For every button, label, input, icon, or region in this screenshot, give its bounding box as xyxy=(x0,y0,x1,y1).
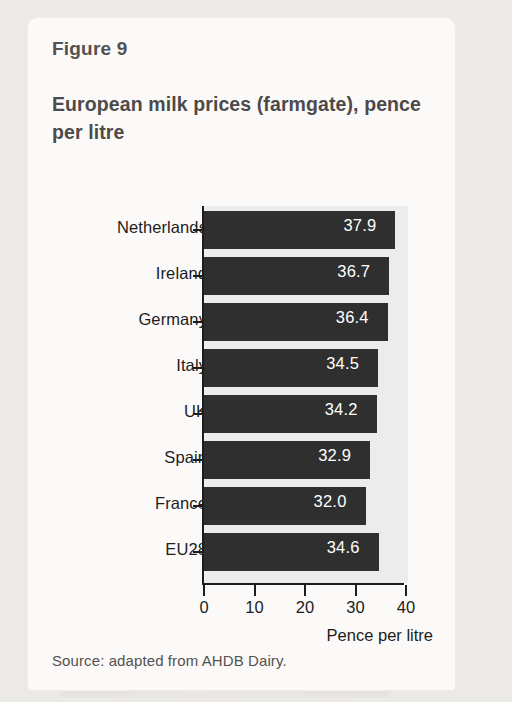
x-axis-tick xyxy=(254,585,256,596)
bar-category-label: France xyxy=(155,494,207,513)
bar-chart: Netherlands37.9Ireland36.7Germany36.4Ita… xyxy=(28,170,455,640)
bar-category-label: Ireland xyxy=(156,264,207,283)
x-axis-tick xyxy=(405,585,407,596)
bar-value-label: 32.0 xyxy=(314,492,347,511)
y-axis-tick xyxy=(193,367,204,369)
x-axis-tick-label: 40 xyxy=(385,598,427,617)
bar-value-label: 36.4 xyxy=(336,308,369,327)
bar-value-label: 37.9 xyxy=(343,216,376,235)
x-axis-title: Pence per litre xyxy=(208,626,433,645)
bar-category-label: EU28 xyxy=(165,540,207,559)
bar-row: Italy34.5 xyxy=(28,345,455,391)
bar-row: Netherlands37.9 xyxy=(28,207,455,253)
y-axis-tick xyxy=(193,321,204,323)
x-axis-tick xyxy=(304,585,306,596)
figure-card: Figure 9 European milk prices (farmgate)… xyxy=(28,18,455,690)
bar-category-label: Netherlands xyxy=(117,218,207,237)
bar-value-label: 34.5 xyxy=(326,354,359,373)
bar-row: Germany36.4 xyxy=(28,299,455,345)
y-axis-tick xyxy=(193,229,204,231)
figure-number: Figure 9 xyxy=(52,38,128,60)
y-axis-tick xyxy=(193,413,204,415)
x-axis-tick-label: 30 xyxy=(335,598,377,617)
bar-value-label: 32.9 xyxy=(318,446,351,465)
bar-value-label: 34.2 xyxy=(325,400,358,419)
bar-value-label: 36.7 xyxy=(337,262,370,281)
y-axis-tick xyxy=(193,459,204,461)
bar-category-label: Spain xyxy=(164,448,207,467)
bar-value-label: 34.6 xyxy=(327,538,360,557)
figure-title: European milk prices (farmgate), pence p… xyxy=(52,90,437,146)
x-axis-tick-label: 0 xyxy=(183,598,225,617)
bar-row: Ireland36.7 xyxy=(28,253,455,299)
bar-category-label: Germany xyxy=(138,310,207,329)
x-axis-tick-label: 10 xyxy=(234,598,276,617)
x-axis-tick-label: 20 xyxy=(284,598,326,617)
bar-row: EU2834.6 xyxy=(28,529,455,575)
x-axis-tick xyxy=(355,585,357,596)
x-axis-tick xyxy=(203,585,205,596)
bar-row: UK34.2 xyxy=(28,391,455,437)
bar-category-label: Italy xyxy=(176,356,207,375)
y-axis-tick xyxy=(193,505,204,507)
y-axis-tick xyxy=(193,551,204,553)
x-axis-line xyxy=(202,583,404,585)
bar-row: Spain32.9 xyxy=(28,437,455,483)
y-axis-tick xyxy=(193,275,204,277)
bar-row: France32.0 xyxy=(28,483,455,529)
source-note: Source: adapted from AHDB Dairy. xyxy=(52,652,287,669)
